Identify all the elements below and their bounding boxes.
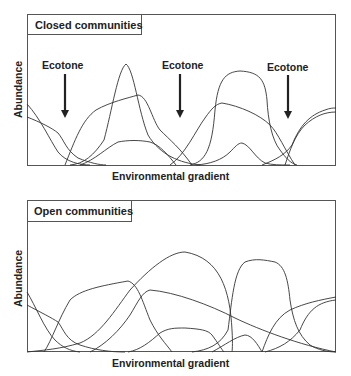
panel-title: Closed communities [35,19,143,31]
arrow-head-icon [284,111,292,119]
species-curve [212,335,262,352]
y-axis-label: Abundance [12,250,24,307]
species-curve [27,104,90,165]
ecotone-annotation-2: Ecotone [162,59,204,118]
open-communities-panel: Open communities Abundance Environmental… [12,201,336,370]
species-curve [265,300,336,352]
ecotone-label: Ecotone [267,61,309,73]
species-curve [196,143,290,165]
species-curve [90,290,336,352]
species-curve [192,260,336,352]
community-diagram: Closed communities Ecotone Ecotone Ecoto… [0,0,351,376]
species-curve [128,328,224,352]
species-curves [27,252,336,352]
species-curve [262,297,336,352]
y-axis-label: Abundance [12,61,24,118]
arrow-head-icon [61,110,69,118]
species-curve [27,252,232,352]
species-curve [27,305,125,352]
closed-communities-panel: Closed communities Ecotone Ecotone Ecoto… [12,15,336,183]
species-curve [285,112,336,165]
ecotone-annotation-3: Ecotone [267,61,309,119]
species-curve [190,71,297,165]
x-axis-label: Environmental gradient [112,170,230,182]
ecotone-annotation-1: Ecotone [42,59,84,118]
arrow-head-icon [176,110,184,118]
ecotone-label: Ecotone [162,59,204,71]
ecotone-label: Ecotone [42,59,84,71]
species-curve [27,292,80,352]
species-curve [170,103,295,165]
plot-frame [28,201,336,352]
species-curve [44,281,172,352]
species-curve [65,95,192,165]
x-axis-label: Environmental gradient [112,357,230,369]
panel-title: Open communities [34,205,133,217]
